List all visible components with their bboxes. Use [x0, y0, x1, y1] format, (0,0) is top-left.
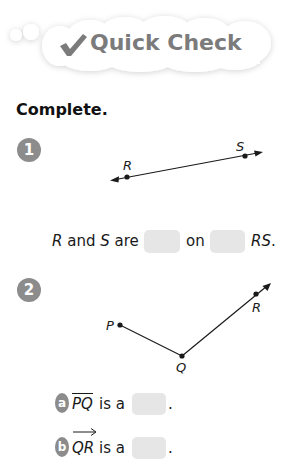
point-p	[117, 322, 122, 327]
var-s: S	[100, 232, 110, 250]
answer-blank-2a[interactable]	[132, 393, 166, 415]
label-r-ray: R	[252, 300, 261, 315]
answer-blank-2b[interactable]	[132, 437, 166, 459]
point-q	[179, 353, 184, 358]
notation-qr: QR	[72, 439, 94, 457]
point-r	[124, 174, 129, 179]
problem-number-badge-2: 2	[17, 278, 41, 302]
text-are: are	[110, 232, 139, 250]
text-on: on	[186, 232, 205, 250]
answer-blank-1b[interactable]	[210, 230, 245, 253]
part-b-notation: QR	[72, 439, 94, 457]
problem-1-sentence-start: R and S are	[52, 232, 139, 250]
point-r2	[253, 291, 258, 296]
part-a-period: .	[168, 395, 173, 413]
segment-pq: PQ	[72, 395, 93, 413]
arrowhead-left-icon	[110, 176, 119, 182]
text-and: and	[62, 232, 100, 250]
var-r: R	[52, 232, 62, 250]
part-a-text: is a	[99, 395, 125, 413]
problem-1-sentence-end: RS.	[251, 232, 276, 250]
part-badge-a: a	[55, 393, 69, 413]
label-p: P	[106, 318, 114, 333]
part-b-period: .	[168, 439, 173, 457]
part-b-text: is a	[99, 439, 125, 457]
part-badge-b: b	[55, 437, 69, 457]
period: .	[271, 232, 276, 250]
arrowhead-ray-icon	[263, 283, 272, 291]
ray-arrow-icon	[72, 427, 98, 437]
label-s: S	[236, 139, 244, 154]
var-rs: RS	[251, 232, 271, 250]
notation-pq: PQ	[72, 395, 93, 413]
label-q: Q	[176, 360, 186, 375]
answer-blank-1a[interactable]	[144, 230, 180, 253]
label-r: R	[123, 158, 132, 173]
point-s	[242, 153, 247, 158]
segment-bar-icon	[72, 393, 93, 394]
ray-qr: QR	[72, 439, 94, 457]
part-a-notation: PQ	[72, 395, 93, 413]
arrowhead-right-icon	[254, 151, 263, 157]
